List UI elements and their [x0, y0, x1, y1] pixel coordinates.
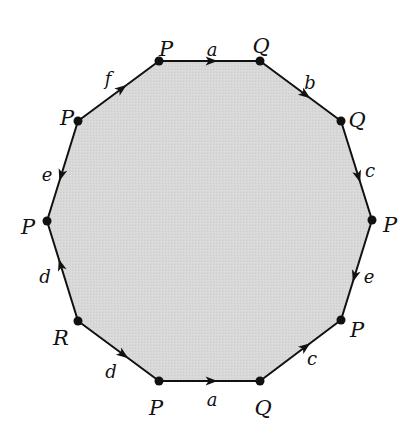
vertex-dot: [155, 377, 164, 386]
vertex-label: P: [158, 37, 174, 61]
edge-label: a: [207, 389, 218, 410]
edge-label: c: [307, 348, 317, 369]
vertex-label: P: [20, 215, 36, 239]
vertex-label: Q: [254, 396, 271, 420]
edge-label: e: [364, 266, 375, 287]
vertex-label: R: [52, 326, 69, 350]
vertex-label: P: [148, 396, 164, 420]
vertex-label: P: [349, 318, 365, 342]
vertex-dot: [43, 217, 52, 226]
vertex-dot: [74, 317, 83, 326]
vertex-dot: [368, 216, 377, 225]
edge-label: d: [39, 266, 51, 287]
vertex-dot: [256, 377, 265, 386]
vertex-label: P: [59, 106, 75, 130]
edge-label: e: [42, 164, 53, 185]
vertex-label: Q: [348, 108, 365, 132]
edge-label: b: [304, 72, 316, 93]
vertex-dot: [74, 117, 83, 126]
edge-label: d: [105, 361, 117, 382]
vertex-label: Q: [252, 34, 269, 58]
vertex-dot: [337, 117, 346, 126]
vertex-label: P: [382, 213, 398, 237]
polygon-diagram: PQQPPQPRPP abcecaddef: [0, 0, 418, 434]
edge-label: a: [207, 39, 218, 60]
edge-label: f: [103, 68, 115, 89]
edge-label: c: [365, 160, 375, 181]
decagon-shape: [47, 61, 372, 381]
vertex-dot: [256, 57, 265, 66]
vertex-dot: [337, 316, 346, 325]
